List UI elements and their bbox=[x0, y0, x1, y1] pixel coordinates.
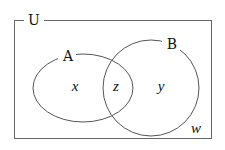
venn-diagram: U A B x z y w bbox=[0, 0, 225, 150]
region-outside: w bbox=[191, 120, 201, 136]
region-intersection: z bbox=[112, 78, 119, 94]
region-only-a: x bbox=[71, 78, 79, 94]
set-b-label: B bbox=[167, 36, 177, 52]
region-only-b: y bbox=[156, 78, 165, 94]
set-a-label: A bbox=[62, 48, 74, 64]
universe-label: U bbox=[28, 12, 40, 28]
